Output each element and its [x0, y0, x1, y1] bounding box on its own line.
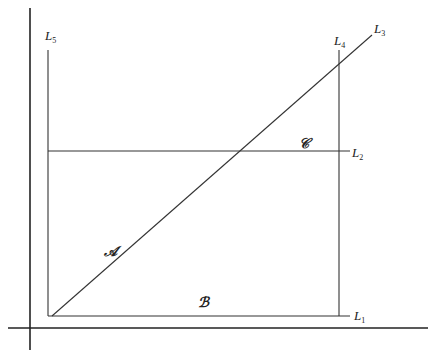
label-l4: L4 [333, 33, 345, 50]
label-l3: L3 [373, 21, 385, 38]
label-l2: L2 [351, 145, 363, 162]
label-l1: L1 [353, 308, 365, 325]
region-c: 𝒞 [299, 135, 313, 151]
lines-group [48, 35, 372, 316]
line-l3 [52, 35, 372, 316]
diagram-canvas: L1L2L3L4L5 𝒜ℬ𝒞 [0, 0, 430, 359]
label-l5: L5 [44, 28, 56, 45]
region-b: ℬ [198, 294, 211, 310]
region-labels: 𝒜ℬ𝒞 [103, 135, 313, 310]
